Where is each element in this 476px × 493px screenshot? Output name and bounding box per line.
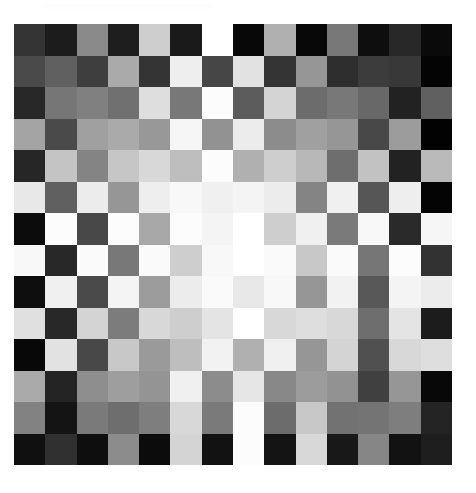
heatmap-cell	[14, 276, 45, 308]
heatmap-cell	[358, 182, 389, 214]
heatmap-cell	[233, 56, 264, 88]
heatmap-cell	[233, 119, 264, 151]
heatmap-cell	[170, 276, 201, 308]
heatmap-cell	[45, 213, 76, 245]
heatmap-cell	[421, 24, 452, 56]
faint-header-text	[42, 4, 212, 9]
heatmap-cell	[389, 308, 420, 340]
heatmap-cell	[233, 150, 264, 182]
heatmap-cell	[358, 119, 389, 151]
heatmap-cell	[327, 24, 358, 56]
heatmap-cell	[389, 339, 420, 371]
heatmap-cell	[14, 24, 45, 56]
heatmap-cell	[108, 402, 139, 434]
heatmap-cell	[45, 150, 76, 182]
heatmap-cell	[389, 371, 420, 403]
heatmap-cell	[202, 87, 233, 119]
heatmap-cell	[296, 150, 327, 182]
heatmap-cell	[108, 434, 139, 466]
heatmap-cell	[327, 56, 358, 88]
heatmap-cell	[389, 276, 420, 308]
heatmap-cell	[264, 182, 295, 214]
heatmap-cell	[139, 56, 170, 88]
heatmap-cell	[45, 308, 76, 340]
heatmap-cell	[170, 150, 201, 182]
heatmap-cell	[45, 182, 76, 214]
heatmap-cell	[327, 308, 358, 340]
heatmap-cell	[264, 56, 295, 88]
heatmap-cell	[296, 371, 327, 403]
heatmap-cell	[233, 24, 264, 56]
heatmap-cell	[170, 119, 201, 151]
heatmap-cell	[108, 276, 139, 308]
heatmap-cell	[421, 434, 452, 466]
heatmap-cell	[327, 213, 358, 245]
heatmap-cell	[77, 434, 108, 466]
heatmap-cell	[139, 213, 170, 245]
heatmap-cell	[202, 56, 233, 88]
heatmap-cell	[202, 213, 233, 245]
heatmap-cell	[108, 245, 139, 277]
heatmap-cell	[77, 119, 108, 151]
heatmap-cell	[108, 56, 139, 88]
heatmap-cell	[139, 402, 170, 434]
heatmap-cell	[45, 87, 76, 119]
heatmap-cell	[77, 182, 108, 214]
heatmap-cell	[202, 339, 233, 371]
heatmap-cell	[108, 87, 139, 119]
heatmap-cell	[358, 308, 389, 340]
heatmap-cell	[327, 87, 358, 119]
heatmap-cell	[77, 245, 108, 277]
heatmap-cell	[170, 182, 201, 214]
heatmap-cell	[358, 371, 389, 403]
heatmap-cell	[389, 24, 420, 56]
heatmap-cell	[358, 402, 389, 434]
heatmap-cell	[108, 371, 139, 403]
heatmap-cell	[170, 245, 201, 277]
heatmap-cell	[14, 339, 45, 371]
heatmap-cell	[77, 213, 108, 245]
heatmap-cell	[233, 402, 264, 434]
heatmap-cell	[389, 182, 420, 214]
heatmap-cell	[14, 150, 45, 182]
heatmap-cell	[264, 119, 295, 151]
heatmap-cell	[327, 371, 358, 403]
heatmap-cell	[170, 371, 201, 403]
heatmap-cell	[202, 24, 233, 56]
heatmap-cell	[14, 371, 45, 403]
heatmap-cell	[327, 434, 358, 466]
heatmap-cell	[77, 371, 108, 403]
heatmap-cell	[264, 371, 295, 403]
heatmap-cell	[421, 276, 452, 308]
heatmap-cell	[14, 56, 45, 88]
heatmap-cell	[139, 434, 170, 466]
heatmap-cell	[14, 213, 45, 245]
heatmap-cell	[170, 24, 201, 56]
heatmap-cell	[296, 276, 327, 308]
heatmap-cell	[14, 434, 45, 466]
heatmap-cell	[296, 182, 327, 214]
heatmap-cell	[77, 308, 108, 340]
plot-area	[14, 24, 452, 465]
heatmap-cell	[264, 402, 295, 434]
heatmap-cell	[139, 119, 170, 151]
heatmap-cell	[296, 245, 327, 277]
heatmap-cell	[202, 150, 233, 182]
heatmap-cell	[170, 402, 201, 434]
heatmap-cell	[421, 339, 452, 371]
heatmap-cell	[233, 245, 264, 277]
heatmap-cell	[45, 276, 76, 308]
heatmap-cell	[170, 56, 201, 88]
header-strip	[0, 0, 476, 14]
heatmap-cell	[296, 213, 327, 245]
heatmap-cell	[202, 402, 233, 434]
heatmap-cell	[264, 245, 295, 277]
heatmap-cell	[389, 150, 420, 182]
heatmap-cell	[389, 87, 420, 119]
heatmap-cell	[389, 245, 420, 277]
heatmap-cell	[421, 87, 452, 119]
heatmap-cell	[358, 213, 389, 245]
heatmap-cell	[14, 87, 45, 119]
heatmap-cell	[264, 150, 295, 182]
heatmap-cell	[45, 245, 76, 277]
